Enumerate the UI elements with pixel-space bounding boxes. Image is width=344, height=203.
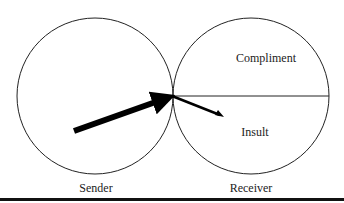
- receiver-label: Receiver: [230, 181, 273, 196]
- insult-label: Insult: [241, 125, 268, 140]
- sender-label: Sender: [79, 181, 112, 196]
- sent-message-arrow: [74, 99, 164, 131]
- diagram-canvas: [0, 0, 344, 203]
- received-arrow-head: [215, 110, 224, 117]
- sender-circle: [17, 18, 173, 174]
- compliment-label: Compliment: [236, 51, 296, 66]
- received-message-arrow: [172, 96, 220, 115]
